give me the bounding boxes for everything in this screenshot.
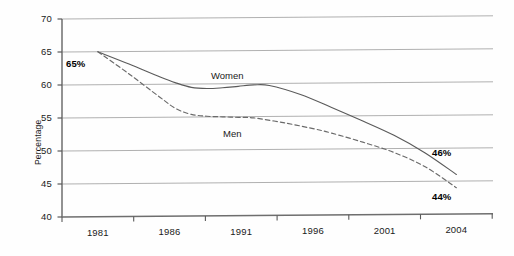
x-tick-label-1981: 1981 xyxy=(68,227,128,238)
x-tick-label-1991: 1991 xyxy=(211,226,271,237)
series-label-men: Men xyxy=(223,128,241,139)
y-tick-label-60: 60 xyxy=(26,79,52,90)
y-tick-label-40: 40 xyxy=(26,211,52,222)
annotation-men-end-value: 44% xyxy=(432,191,451,202)
chart-plot-area xyxy=(0,0,514,256)
gridline-y-60 xyxy=(62,82,493,85)
y-tick-label-45: 45 xyxy=(26,178,52,189)
series-line-men xyxy=(98,52,457,188)
x-tick-label-2004: 2004 xyxy=(426,224,486,235)
line-chart: Percentage 70656055504540198119861991199… xyxy=(0,0,514,256)
x-tick-label-2001: 2001 xyxy=(355,225,415,236)
series-label-women: Women xyxy=(211,70,244,81)
y-tick-label-65: 65 xyxy=(26,46,52,57)
gridline-y-65 xyxy=(62,49,493,52)
gridline-y-55 xyxy=(62,115,493,118)
x-tick-label-1996: 1996 xyxy=(283,225,343,236)
gridline-y-70 xyxy=(62,16,493,19)
y-axis-title: Percentage xyxy=(33,120,43,165)
gridline-y-45 xyxy=(62,181,493,184)
annotation-women-end-value: 46% xyxy=(432,147,451,158)
gridline-y-50 xyxy=(62,148,493,151)
annotation-start-value: 65% xyxy=(66,58,85,69)
y-tick-label-70: 70 xyxy=(26,13,52,24)
y-tick-label-55: 55 xyxy=(26,112,52,123)
x-tick-label-1986: 1986 xyxy=(140,226,200,237)
y-tick-label-50: 50 xyxy=(26,145,52,156)
